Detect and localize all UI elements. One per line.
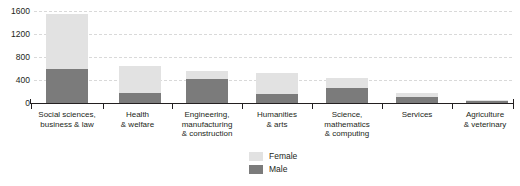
bar-series-container bbox=[34, 11, 512, 103]
bar-segment-female[interactable] bbox=[186, 71, 228, 79]
x-axis-label-health-welfare: Health & welfare bbox=[103, 110, 172, 129]
x-axis-label-science-maths-computing: Science, mathematics & computing bbox=[310, 110, 384, 139]
legend-swatch-female bbox=[249, 152, 263, 161]
legend-item-male[interactable]: Male bbox=[249, 164, 359, 175]
x-axis-labels: Social sciences, business & law Health &… bbox=[0, 110, 520, 150]
bar-group-services[interactable] bbox=[396, 93, 438, 103]
bar-group-humanities-arts[interactable] bbox=[256, 73, 298, 103]
y-axis-tick-label: 800 bbox=[0, 53, 30, 62]
x-axis-tick bbox=[242, 103, 243, 109]
bar-group-science-maths-computing[interactable] bbox=[326, 78, 368, 103]
legend: Female Male bbox=[249, 151, 359, 177]
x-axis-label-social-sciences: Social sciences, business & law bbox=[31, 110, 103, 129]
bar-group-health-welfare[interactable] bbox=[119, 66, 161, 103]
x-axis-tick bbox=[513, 103, 514, 109]
bar-segment-female[interactable] bbox=[119, 66, 161, 94]
bar-segment-male[interactable] bbox=[186, 79, 228, 103]
legend-label-male: Male bbox=[269, 165, 287, 174]
x-axis-label-humanities-arts: Humanities & arts bbox=[242, 110, 312, 129]
legend-item-female[interactable]: Female bbox=[249, 151, 359, 162]
x-axis-label-agriculture-veterinary: Agriculture & veterinary bbox=[450, 110, 520, 129]
x-axis-tick bbox=[312, 103, 313, 109]
stacked-bar-chart: 1600 1200 800 400 0 bbox=[0, 0, 520, 186]
bar-segment-male[interactable] bbox=[256, 94, 298, 103]
legend-label-female: Female bbox=[269, 152, 297, 161]
x-axis-tick bbox=[382, 103, 383, 109]
bar-segment-male[interactable] bbox=[326, 88, 368, 103]
bar-segment-female[interactable] bbox=[46, 14, 88, 69]
legend-swatch-male bbox=[249, 165, 263, 174]
y-axis: 1600 1200 800 400 0 bbox=[0, 11, 30, 103]
x-axis-tick bbox=[172, 103, 173, 109]
x-axis-label-services: Services bbox=[382, 110, 452, 120]
bar-segment-female[interactable] bbox=[326, 78, 368, 88]
y-axis-tick-label: 400 bbox=[0, 76, 30, 85]
x-axis-label-engineering: Engineering, manufacturing & constructio… bbox=[170, 110, 244, 139]
x-axis-ticks bbox=[0, 103, 520, 110]
x-axis-tick bbox=[103, 103, 104, 109]
bar-segment-male[interactable] bbox=[119, 93, 161, 103]
y-axis-tick-label: 1200 bbox=[0, 30, 30, 39]
bar-group-social-sciences[interactable] bbox=[46, 14, 88, 103]
x-axis-tick bbox=[452, 103, 453, 109]
y-axis-tick-label: 1600 bbox=[0, 7, 30, 16]
bar-group-engineering[interactable] bbox=[186, 71, 228, 103]
bar-segment-male[interactable] bbox=[46, 69, 88, 104]
bar-segment-female[interactable] bbox=[256, 73, 298, 94]
x-axis-tick bbox=[31, 103, 32, 109]
